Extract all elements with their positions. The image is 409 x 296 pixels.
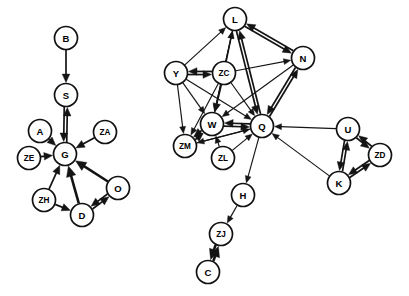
node-label: ZD [375, 151, 386, 160]
graph-svg: BSAZAZEGZHODLNYZCWQZMZLUZDKHZJC [0, 0, 409, 296]
graph-node-s[interactable]: S [55, 84, 78, 107]
graph-node-y[interactable]: Y [165, 62, 188, 85]
graph-node-zm[interactable]: ZM [174, 135, 197, 158]
edge-layer [41, 24, 372, 261]
node-label: C [205, 267, 212, 278]
node-label: B [63, 33, 70, 44]
graph-edge [41, 153, 53, 161]
node-label: ZC [219, 69, 230, 78]
graph-node-n[interactable]: N [292, 47, 315, 70]
node-label: ZL [218, 154, 228, 163]
node-label: ZM [179, 142, 191, 151]
node-label: ZE [24, 154, 35, 163]
graph-edge [67, 166, 79, 203]
graph-node-h[interactable]: H [232, 184, 255, 207]
graph-edge [183, 83, 205, 114]
node-label: ZH [39, 196, 50, 205]
node-label: ZA [100, 128, 111, 137]
graph-node-g[interactable]: G [54, 143, 77, 166]
graph-edge [91, 194, 109, 209]
graph-node-q[interactable]: Q [251, 115, 274, 138]
graph-node-b[interactable]: B [55, 27, 78, 50]
graph-node-o[interactable]: O [107, 177, 130, 200]
graph-node-a[interactable]: A [29, 120, 52, 143]
graph-edge [232, 134, 252, 150]
graph-edge [348, 160, 370, 177]
graph-edge [188, 68, 212, 79]
graph-edge [267, 67, 298, 116]
graph-edge [76, 138, 95, 148]
graph-node-c[interactable]: C [197, 261, 220, 284]
graph-edge [274, 124, 336, 130]
node-label: Y [173, 68, 180, 79]
graph-edge [60, 107, 71, 142]
graph-edge [177, 85, 185, 134]
graph-edge [356, 136, 371, 149]
node-label: K [336, 178, 343, 189]
graph-node-ze[interactable]: ZE [18, 147, 41, 170]
graph-edge [337, 141, 350, 172]
node-label: L [232, 14, 238, 25]
graph-edge [227, 205, 237, 223]
node-label: D [79, 210, 86, 221]
graph-node-zd[interactable]: ZD [369, 144, 392, 167]
node-label: O [114, 183, 121, 194]
graph-node-zh[interactable]: ZH [33, 189, 56, 212]
graph-node-k[interactable]: K [328, 172, 351, 195]
graph-node-d[interactable]: D [71, 204, 94, 227]
node-label: A [37, 126, 44, 137]
graph-edge [185, 27, 226, 64]
graph-edge [209, 245, 219, 261]
node-label: S [63, 90, 69, 101]
node-label: Q [258, 121, 265, 132]
graph-edge [186, 79, 251, 119]
node-label: ZJ [216, 230, 226, 239]
graph-canvas: BSAZAZEGZHODLNYZCWQZMZLUZDKHZJC [0, 0, 409, 296]
graph-node-zl[interactable]: ZL [212, 147, 235, 170]
node-label: H [240, 190, 247, 201]
node-label: W [208, 119, 217, 130]
graph-node-l[interactable]: L [224, 8, 247, 31]
graph-node-za[interactable]: ZA [94, 121, 117, 144]
graph-node-zj[interactable]: ZJ [210, 223, 233, 246]
graph-node-w[interactable]: W [201, 113, 224, 136]
node-label: N [300, 53, 307, 64]
node-layer: BSAZAZEGZHODLNYZCWQZMZLUZDKHZJC [18, 8, 392, 284]
graph-edge [236, 31, 260, 115]
graph-edge [55, 204, 70, 211]
node-label: U [345, 124, 352, 135]
graph-edge [62, 50, 70, 83]
graph-edge [245, 24, 294, 53]
graph-edge [272, 133, 329, 175]
graph-edge [245, 138, 259, 183]
graph-node-u[interactable]: U [337, 118, 360, 141]
node-label: G [61, 149, 68, 160]
graph-node-zc[interactable]: ZC [213, 62, 236, 85]
graph-edge [76, 161, 108, 182]
graph-edge [49, 165, 60, 189]
